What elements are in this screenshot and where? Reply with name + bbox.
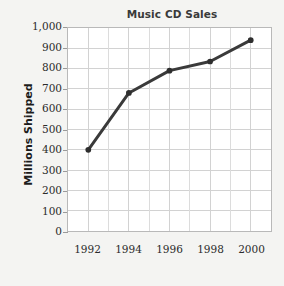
y-axis-tick-label: 300 — [16, 164, 62, 176]
y-axis-tick-label: 800 — [16, 61, 62, 73]
chart-title: Music CD Sales — [66, 8, 278, 20]
y-axis-tick-label: 700 — [16, 82, 62, 94]
x-axis-tick-label: 1996 — [147, 243, 193, 255]
y-axis-tick-mark — [63, 232, 68, 233]
y-axis-tick-label: 0 — [16, 225, 62, 237]
y-axis-tick-label: 500 — [16, 123, 62, 135]
x-axis-tick-labels: 19921994199619982000 — [67, 243, 282, 261]
data-series-line — [68, 28, 271, 231]
chart-container: Music CD Sales Millions Shipped 1,000900… — [0, 0, 284, 286]
x-axis-tick-label: 1992 — [65, 243, 111, 255]
x-axis-tick-label: 1998 — [188, 243, 234, 255]
y-axis-tick-label: 1,000 — [16, 20, 62, 32]
plot-area — [67, 27, 272, 232]
y-axis-tick-label: 600 — [16, 102, 62, 114]
y-axis-tick-labels: 1,0009008007006005004003002001000 — [14, 0, 62, 286]
y-axis-tick-label: 900 — [16, 41, 62, 53]
x-axis-tick-label: 1994 — [106, 243, 152, 255]
y-axis-tick-label: 400 — [16, 143, 62, 155]
y-axis-tick-label: 100 — [16, 205, 62, 217]
y-axis-tick-label: 200 — [16, 184, 62, 196]
x-axis-tick-label: 2000 — [229, 243, 275, 255]
